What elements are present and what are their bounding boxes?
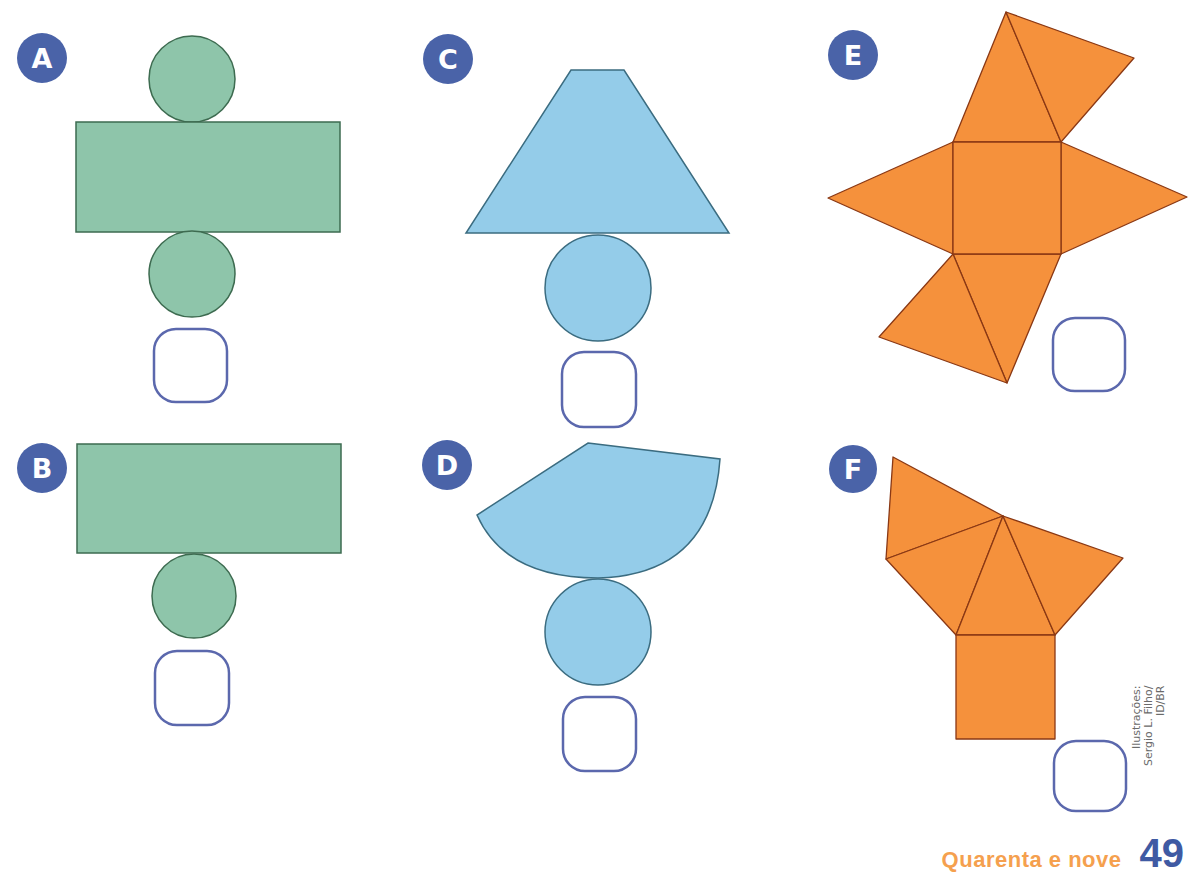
net-d-sector [477, 443, 720, 578]
net-e: E [828, 12, 1187, 391]
label-badge-d: D [422, 440, 472, 490]
net-a-bottom-circle [149, 231, 235, 317]
label-b-text: B [32, 453, 53, 484]
label-d-text: D [436, 450, 458, 481]
net-c-circle [545, 235, 651, 341]
page-number-words: Quarenta e nove [942, 847, 1122, 873]
label-badge-b: B [17, 443, 67, 493]
net-c: C [423, 34, 729, 427]
label-badge-a: A [17, 33, 67, 83]
answer-box-a[interactable] [154, 329, 227, 402]
net-b-rectangle [77, 444, 341, 553]
answer-box-b[interactable] [155, 651, 229, 725]
credit-line-3: ID/BR [1155, 685, 1167, 766]
answer-box-e[interactable] [1053, 318, 1125, 391]
answer-box-c[interactable] [562, 352, 636, 427]
page-number: 49 [1140, 831, 1185, 876]
net-f-square [956, 635, 1055, 739]
geometric-nets-figure: A B C D [0, 0, 1196, 884]
net-e-left-triangle [828, 142, 953, 254]
net-b: B [17, 443, 341, 725]
net-d: D [422, 440, 720, 771]
net-a-rectangle [76, 122, 340, 232]
answer-box-d[interactable] [563, 697, 636, 771]
net-b-circle [152, 554, 236, 638]
net-a: A [17, 33, 340, 402]
label-c-text: C [438, 44, 458, 75]
label-badge-f: F [829, 445, 877, 493]
net-e-right-triangle [1061, 142, 1187, 254]
net-e-square [953, 142, 1061, 254]
label-f-text: F [844, 454, 862, 485]
net-d-circle [545, 579, 651, 685]
label-badge-c: C [423, 34, 473, 84]
net-c-trapezoid [466, 70, 729, 233]
label-e-text: E [844, 40, 862, 71]
label-badge-e: E [828, 30, 878, 80]
net-f: F [829, 445, 1126, 811]
answer-box-f[interactable] [1054, 741, 1126, 811]
page-footer: Quarenta e nove 49 [942, 831, 1184, 876]
net-a-top-circle [149, 36, 235, 122]
label-a-text: A [32, 43, 53, 74]
